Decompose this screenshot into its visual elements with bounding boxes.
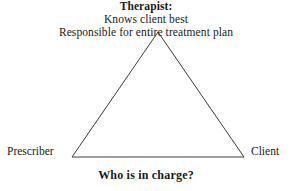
diagram-canvas: Therapist: Knows client best Responsible… bbox=[0, 0, 292, 191]
vertex-label-client: Client bbox=[251, 145, 279, 158]
vertex-label-prescriber: Prescriber bbox=[7, 145, 54, 158]
triangle-outline bbox=[72, 32, 244, 157]
diagram-caption: Who is in charge? bbox=[0, 168, 292, 183]
triangle-shape bbox=[0, 0, 292, 191]
